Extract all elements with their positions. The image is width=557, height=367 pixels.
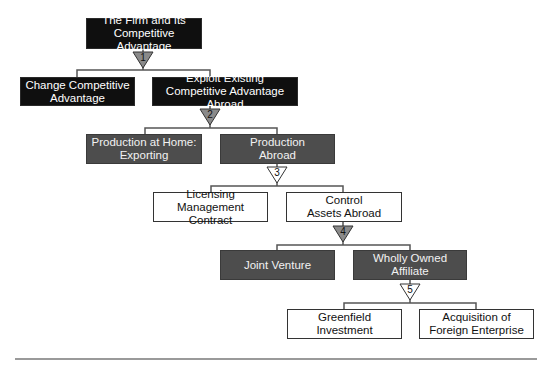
decision-tree-diagram: 1 2 3 4 5 The Firm and Its Competitive A… (0, 0, 557, 367)
step-4-label: 4 (333, 227, 353, 237)
step-2-label: 2 (200, 110, 220, 120)
node-licensing-management-contract: Licensing Management Contract (153, 192, 268, 222)
node-change-competitive-advantage: Change Competitive Advantage (20, 77, 135, 106)
node-greenfield-investment: Greenfield Investment (287, 309, 402, 339)
step-1-label: 1 (133, 53, 153, 63)
step-5-label: 5 (400, 285, 420, 295)
node-production-abroad: Production Abroad (220, 134, 335, 164)
node-production-at-home-exporting: Production at Home: Exporting (86, 134, 202, 164)
step-3-label: 3 (267, 168, 287, 178)
node-wholly-owned-affiliate: Wholly Owned Affiliate (353, 250, 467, 280)
node-control-assets-abroad: Control Assets Abroad (286, 192, 402, 222)
node-joint-venture: Joint Venture (220, 250, 335, 280)
node-exploit-existing-advantage: Exploit Existing Competitive Advantage A… (152, 77, 298, 106)
node-firm-competitive-advantage: The Firm and Its Competitive Advantage (86, 18, 202, 49)
bottom-divider (15, 358, 537, 360)
node-acquisition-foreign-enterprise: Acquisition of Foreign Enterprise (419, 309, 534, 339)
